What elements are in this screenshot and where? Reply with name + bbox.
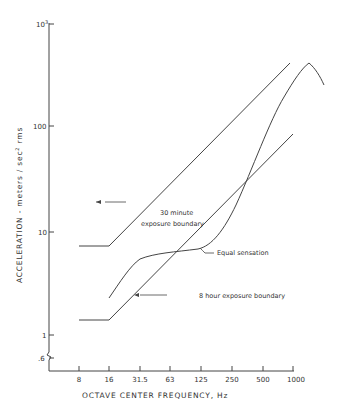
y-tick-100: 100 — [33, 123, 46, 131]
arrow-8-hour-icon — [134, 293, 167, 297]
y-ticks — [49, 24, 54, 358]
annotation-30-minute-line2: exposure boundary — [141, 220, 204, 228]
arrow-equal-sensation-icon — [200, 248, 214, 253]
series-30-minute-boundary — [79, 63, 290, 246]
y-tick-1000: 103 — [36, 19, 48, 29]
y-tick-10: 10 — [38, 229, 47, 237]
y-tick-0.6: .6 — [38, 355, 45, 363]
arrow-30-minute-icon — [96, 200, 126, 204]
series-equal-sensation — [109, 63, 324, 298]
x-tick-125: 125 — [194, 376, 207, 384]
x-tick-500: 500 — [256, 376, 269, 384]
y-axis-title: ACCELERATION - meters / sec2 rms — [14, 127, 24, 283]
axis-break-icon — [47, 352, 51, 371]
chart-canvas: 103 100 10 1 .6 8 16 31.5 63 125 250 500… — [0, 0, 340, 417]
x-tick-63: 63 — [166, 376, 175, 384]
x-ticks — [79, 366, 293, 371]
x-tick-250: 250 — [225, 376, 238, 384]
x-tick-8: 8 — [77, 376, 81, 384]
x-axis-title: OCTAVE CENTER FREQUENCY, Hz — [82, 391, 228, 400]
annotation-equal-sensation: Equal sensation — [217, 249, 269, 257]
y-tick-1: 1 — [42, 332, 46, 340]
annotation-8-hour: 8 hour exposure boundary — [199, 292, 285, 300]
x-tick-16: 16 — [105, 376, 114, 384]
annotation-30-minute-line1: 30 minute — [160, 209, 193, 217]
x-tick-1000: 1000 — [287, 376, 305, 384]
x-tick-31.5: 31.5 — [132, 376, 148, 384]
